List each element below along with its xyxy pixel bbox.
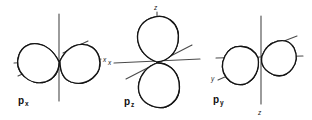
py-label-sub: y [220, 99, 224, 107]
orbitals-canvas: x p x [0, 0, 312, 120]
px-label-base: p [18, 95, 24, 106]
p-orbitals-figure: x p x [0, 0, 312, 120]
py-label-base: p [213, 94, 219, 105]
px-label-sub: x [25, 100, 29, 107]
pz-label-base: p [124, 96, 130, 107]
